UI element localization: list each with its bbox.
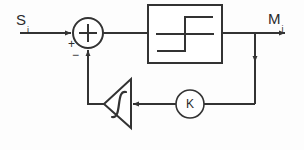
- saturation-amplifier-block: [104, 79, 131, 128]
- diagram-canvas: [0, 0, 304, 150]
- output-signal-subscript: i: [282, 24, 284, 34]
- input-signal-label: Si: [16, 12, 28, 31]
- summing-junction-minus-sign: −: [72, 49, 79, 61]
- input-signal-base: S: [16, 11, 26, 28]
- block-diagram: Si Mi + − K: [0, 0, 304, 150]
- gain-block-label: K: [186, 98, 194, 110]
- input-signal-subscript: i: [27, 25, 29, 35]
- output-signal-base: M: [268, 10, 281, 27]
- connection-saturation-to-sum: [88, 50, 104, 104]
- output-signal-label: Mi: [268, 11, 283, 30]
